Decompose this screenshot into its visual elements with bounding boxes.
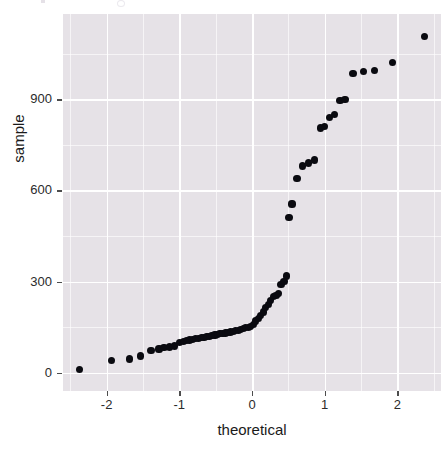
gridline-y-major (63, 373, 441, 375)
data-point (421, 33, 428, 40)
top-edge-artifact-circle (117, 0, 125, 7)
x-tick-label: 2 (394, 398, 401, 412)
x-tick-mark (107, 391, 108, 396)
top-edge-artifact (41, 0, 45, 3)
y-tick-mark (57, 190, 62, 191)
data-point (126, 355, 133, 362)
data-point (349, 70, 356, 77)
gridline-y-major (63, 282, 441, 284)
data-point (147, 347, 154, 354)
x-tick-mark (179, 391, 180, 396)
x-tick-label: 0 (248, 398, 255, 412)
y-tick-mark (57, 99, 62, 100)
x-tick-label: -2 (101, 398, 113, 412)
data-point (293, 175, 300, 182)
y-tick-mark (57, 282, 62, 283)
x-tick-label: -1 (174, 398, 186, 412)
x-tick-mark (397, 391, 398, 396)
x-axis-title: theoretical (63, 421, 441, 438)
data-point (331, 111, 338, 118)
y-tick-label: 0 (0, 366, 52, 380)
gridline-x-major (397, 14, 399, 391)
data-point (341, 96, 348, 103)
gridline-x-major (252, 14, 254, 391)
data-point (321, 123, 328, 130)
data-point (311, 156, 318, 163)
gridline-x-minor (70, 14, 71, 391)
x-tick-mark (325, 391, 326, 396)
x-tick-label: 1 (321, 398, 328, 412)
gridline-x-major (179, 14, 181, 391)
data-point (108, 357, 115, 364)
y-tick-mark (57, 373, 62, 374)
gridline-x-major (325, 14, 327, 391)
y-axis-title: sample (10, 69, 27, 209)
data-point (360, 68, 367, 75)
y-tick-label: 300 (0, 275, 52, 289)
data-point (285, 214, 292, 221)
data-point (137, 352, 144, 359)
gridline-y-major (63, 99, 441, 101)
gridline-y-major (63, 190, 441, 192)
data-point (371, 67, 378, 74)
plot-panel (63, 14, 441, 391)
gridline-x-minor (143, 14, 144, 391)
data-point (275, 290, 282, 297)
data-point (389, 59, 396, 66)
gridline-x-major (107, 14, 109, 391)
data-point (288, 200, 295, 207)
data-point (283, 272, 290, 279)
qq-plot-figure: -2-10120300600900 theoretical sample (0, 0, 448, 450)
x-tick-mark (252, 391, 253, 396)
gridline-x-minor (434, 14, 435, 391)
